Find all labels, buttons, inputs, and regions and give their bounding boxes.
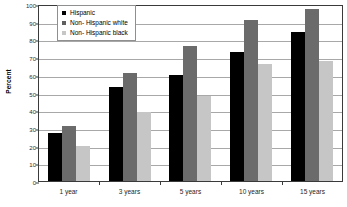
bar: [62, 126, 76, 181]
x-axis-tick-mark: [99, 182, 100, 185]
x-axis: 1 year3 years5 years10 years15 years: [38, 182, 343, 204]
legend-swatch-non-hispanic-black: [62, 31, 66, 35]
y-axis-tick-label: 40: [29, 109, 36, 115]
legend-item-label: Hispanic: [70, 9, 95, 16]
bar: [244, 20, 258, 181]
bar: [305, 9, 319, 181]
y-axis-title: Percent: [5, 52, 12, 112]
y-axis-tick-label: 80: [29, 38, 36, 44]
bar-group: [169, 6, 211, 181]
bar: [76, 146, 90, 181]
x-axis-tick-label: 5 years: [180, 188, 201, 195]
x-axis-tick-label: 3 years: [119, 188, 140, 195]
y-axis-tick-label: 0: [33, 180, 36, 186]
bar: [109, 87, 123, 181]
y-axis-tick-label: 30: [29, 127, 36, 133]
x-axis-tick-mark: [160, 182, 161, 185]
bar-group: [230, 6, 272, 181]
y-axis-tick-label: 100: [26, 3, 36, 9]
x-axis-tick-mark: [282, 182, 283, 185]
y-axis-tick-label: 70: [29, 56, 36, 62]
bar: [291, 32, 305, 181]
y-axis-tick-label: 20: [29, 145, 36, 151]
bar: [230, 52, 244, 181]
bar: [123, 73, 137, 181]
y-axis-tick-label: 90: [29, 21, 36, 27]
bar: [169, 75, 183, 181]
bar: [197, 96, 211, 181]
bar: [137, 112, 151, 181]
bar: [258, 64, 272, 181]
y-axis-tick-label: 10: [29, 162, 36, 168]
legend-swatch-non-hispanic-white: [62, 21, 66, 25]
legend-swatch-hispanic: [62, 11, 66, 15]
legend-item-label: Non- Hispanic black: [70, 29, 128, 36]
bar: [319, 61, 333, 181]
legend-item: Hispanic: [62, 8, 128, 17]
y-axis-tick-label: 50: [29, 92, 36, 98]
bar: [183, 46, 197, 181]
bar-chart: Percent 0102030405060708090100 1 year3 y…: [0, 0, 347, 207]
bar: [48, 133, 62, 181]
legend-item: Non- Hispanic black: [62, 28, 128, 37]
bar-group: [291, 6, 333, 181]
x-axis-tick-label: 10 years: [239, 188, 264, 195]
y-axis-tick-label: 60: [29, 74, 36, 80]
legend-item: Non- Hispanic white: [62, 18, 128, 27]
chart-legend: HispanicNon- Hispanic whiteNon- Hispanic…: [57, 5, 136, 41]
legend-item-label: Non- Hispanic white: [70, 19, 128, 26]
x-axis-tick-label: 15 years: [300, 188, 325, 195]
x-axis-tick-mark: [221, 182, 222, 185]
x-axis-tick-label: 1 year: [59, 188, 77, 195]
